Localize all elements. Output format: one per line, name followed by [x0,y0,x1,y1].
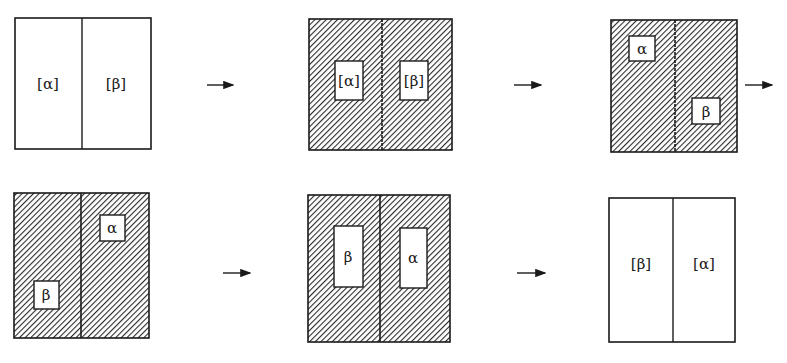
panel-3: α β [611,20,737,152]
panel-2-label-right: [β] [404,72,424,90]
panel-4: α β [14,193,149,338]
panel-1-label-left: [α] [37,75,59,93]
panel-2: [α] [β] [309,19,452,150]
panel-4-label-beta: β [42,286,51,304]
panel-3-label-beta: β [702,103,711,121]
panel-3-label-alpha: α [637,40,647,58]
panel-6-label-left: [β] [631,255,651,273]
panel-5: β α [308,195,450,342]
panel-5-label-beta: β [344,248,353,266]
panel-1-label-right: [β] [106,75,126,93]
panel-1: [α] [β] [15,18,151,149]
panel-5-label-alpha: α [408,249,418,267]
phase-exchange-diagram: [α] [β] [α] [β] α β α β [0,0,787,363]
panel-6: [β] [α] [609,198,735,342]
panel-2-label-left: [α] [338,72,360,90]
panel-4-label-alpha: α [107,219,117,237]
panel-6-label-right: [α] [693,255,715,273]
